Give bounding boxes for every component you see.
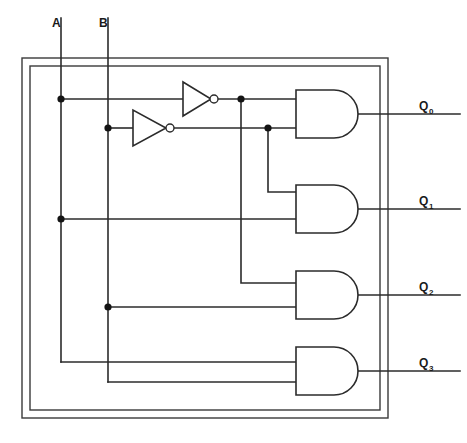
and-gate-q0-body bbox=[296, 90, 358, 138]
input-label-b: B bbox=[99, 16, 108, 30]
output-label-q0-subscript: 0 bbox=[429, 107, 434, 116]
and-gate-q0[interactable] bbox=[296, 90, 358, 138]
output-label-q1-base: Q bbox=[419, 194, 428, 208]
junction-dot-b-not bbox=[264, 124, 271, 131]
junction-dot-a-not bbox=[237, 95, 244, 102]
output-label-q3-base: Q bbox=[419, 356, 428, 370]
inverter-b-bubble-icon bbox=[166, 124, 174, 132]
output-label-q2-base: Q bbox=[419, 280, 428, 294]
junction-dot-a-top bbox=[57, 95, 64, 102]
output-label-q3-subscript: 3 bbox=[429, 364, 434, 373]
and-gate-q1-body bbox=[296, 185, 358, 233]
input-label-a: A bbox=[52, 16, 61, 30]
junction-dot-b-mid bbox=[104, 303, 111, 310]
and-gate-q2[interactable] bbox=[296, 271, 358, 319]
junction-dot-a-mid bbox=[57, 215, 64, 222]
and-gate-q2-body bbox=[296, 271, 358, 319]
and-gate-q3-body bbox=[296, 347, 358, 395]
junction-dot-b-top bbox=[104, 124, 111, 131]
and-gate-q1[interactable] bbox=[296, 185, 358, 233]
output-label-q1-subscript: 1 bbox=[429, 202, 434, 211]
inverter-a-bubble-icon bbox=[210, 95, 218, 103]
and-gate-q3[interactable] bbox=[296, 347, 358, 395]
output-label-q0-base: Q bbox=[419, 99, 428, 113]
output-label-q2-subscript: 2 bbox=[429, 288, 434, 297]
logic-circuit-diagram: A B Q 0 Q 1 Q 2 Q 3 bbox=[0, 0, 467, 443]
